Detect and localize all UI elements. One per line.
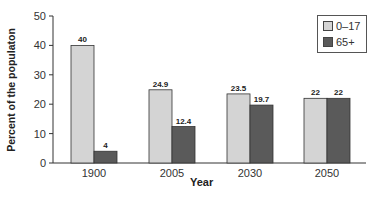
x-tick-label: 2050 — [315, 167, 339, 179]
x-tick-label: 1900 — [82, 167, 106, 179]
legend: 0–17 65+ — [317, 15, 367, 53]
bar-1900-0 — [71, 45, 94, 163]
y-axis-title: Percent of the populaton — [4, 16, 18, 163]
y-axis-title-text: Percent of the populaton — [5, 28, 17, 152]
data-label: 40 — [78, 35, 87, 44]
legend-label: 0–17 — [336, 20, 360, 32]
bar-2050-1 — [327, 98, 350, 163]
data-label: 12.4 — [176, 117, 192, 126]
legend-item-65-plus: 65+ — [323, 36, 355, 48]
bar-2030-0 — [227, 94, 250, 163]
y-tick-label: 20 — [34, 98, 46, 110]
x-axis-title: Year — [190, 176, 213, 188]
bar-2050-0 — [304, 98, 327, 163]
y-axis: 01020304050 — [34, 10, 53, 169]
y-tick-label: 10 — [34, 128, 46, 140]
data-label: 22 — [311, 88, 320, 97]
data-label: 22 — [334, 88, 343, 97]
data-label: 19.7 — [254, 95, 270, 104]
data-label: 24.9 — [153, 80, 169, 89]
legend-swatch-dark-icon — [323, 37, 333, 47]
data-label: 23.5 — [231, 84, 247, 93]
legend-label: 65+ — [336, 36, 355, 48]
legend-swatch-light-icon — [323, 21, 333, 31]
bar-2005-0 — [149, 90, 172, 163]
y-tick-label: 30 — [34, 69, 46, 81]
bar-1900-1 — [94, 151, 117, 163]
bars — [71, 45, 350, 163]
legend-item-0-17: 0–17 — [323, 20, 360, 32]
y-tick-label: 0 — [40, 157, 46, 169]
data-label: 4 — [103, 141, 108, 150]
x-tick-label: 2030 — [238, 167, 262, 179]
bar-2030-1 — [250, 105, 273, 163]
x-tick-label: 2005 — [160, 167, 184, 179]
bar-2005-1 — [172, 127, 195, 163]
y-tick-label: 50 — [34, 10, 46, 22]
y-tick-label: 40 — [34, 39, 46, 51]
